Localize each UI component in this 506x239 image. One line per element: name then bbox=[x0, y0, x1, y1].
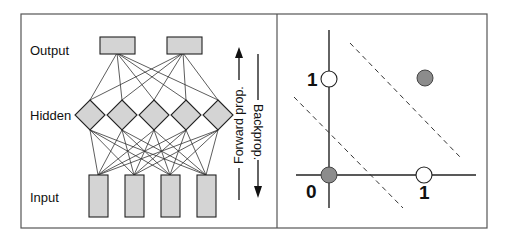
output-node-2 bbox=[167, 37, 202, 54]
hidden-layer-label: Hidden bbox=[30, 108, 71, 123]
hidden-node-4 bbox=[171, 100, 201, 130]
input-hidden-connections bbox=[90, 130, 218, 175]
output-layer-label: Output bbox=[30, 43, 69, 58]
output-node-1 bbox=[100, 37, 135, 54]
y-tick-1: 1 bbox=[307, 69, 318, 90]
input-node-1 bbox=[89, 175, 108, 217]
hidden-node-2 bbox=[107, 100, 137, 130]
point-1-0-white bbox=[416, 167, 432, 183]
arrow-down-icon bbox=[254, 186, 262, 198]
point-0-0-gray bbox=[321, 167, 337, 183]
input-node-3 bbox=[161, 175, 180, 217]
forward-prop-arrow: Forward prop. bbox=[232, 47, 246, 200]
input-layer-label: Input bbox=[30, 190, 59, 205]
hidden-node-5 bbox=[203, 100, 233, 130]
forward-prop-label: Forward prop. bbox=[232, 86, 246, 164]
origin-label: 0 bbox=[306, 181, 317, 202]
backprop-arrow: Backprop. bbox=[251, 54, 265, 198]
hidden-node-3 bbox=[139, 100, 169, 130]
backprop-label: Backprop. bbox=[251, 104, 265, 160]
input-node-2 bbox=[125, 175, 144, 217]
hidden-output-connections bbox=[90, 53, 218, 100]
decision-boundary-upper bbox=[350, 43, 460, 157]
input-node-4 bbox=[197, 175, 216, 217]
point-0-1-white bbox=[321, 71, 337, 87]
point-1-1-gray bbox=[417, 70, 433, 86]
xor-plot: 1 0 1 bbox=[294, 30, 476, 208]
arrow-up-icon bbox=[235, 47, 243, 58]
x-tick-1: 1 bbox=[419, 182, 430, 203]
hidden-node-1 bbox=[75, 100, 105, 130]
diagram-canvas: Output Hidden Input Forward prop. Backpr… bbox=[0, 0, 506, 239]
